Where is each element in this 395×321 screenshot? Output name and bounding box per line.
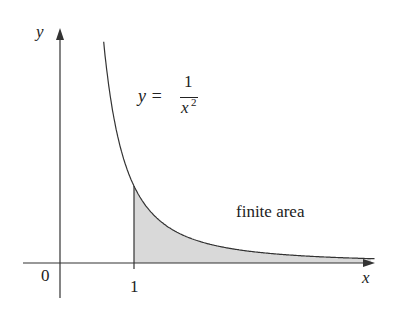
x-axis-label: x xyxy=(362,268,370,288)
equation-numerator: 1 xyxy=(184,72,193,92)
origin-label: 0 xyxy=(41,266,50,286)
area-label: finite area xyxy=(236,202,304,222)
y-axis-arrow-icon xyxy=(56,28,64,40)
y-axis-label: y xyxy=(36,22,44,42)
plot xyxy=(0,0,395,321)
equation-exponent: 2 xyxy=(191,96,197,108)
tick-label-one: 1 xyxy=(130,277,139,297)
figure: y x 0 1 y = 1 x 2 finite area xyxy=(0,0,395,321)
equation-lhs: y = xyxy=(138,86,163,107)
equation-denominator: x xyxy=(181,98,189,118)
